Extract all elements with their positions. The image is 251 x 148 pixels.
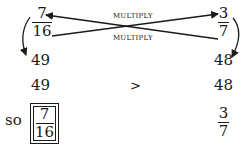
curved-arrow-right bbox=[232, 18, 239, 57]
comparison-right: 48 bbox=[214, 78, 233, 93]
comparison-left: 49 bbox=[31, 78, 50, 93]
multiply-label-bottom: MULTIPLY bbox=[113, 34, 153, 42]
multiply-label-top: MULTIPLY bbox=[113, 12, 153, 20]
denominator: 7 bbox=[219, 124, 229, 139]
product-left: 49 bbox=[31, 53, 50, 68]
answer-fraction-box: 7 16 bbox=[30, 103, 59, 144]
right-fraction: 3 7 bbox=[218, 6, 229, 39]
comparison-operator: > bbox=[130, 78, 141, 93]
denominator: 16 bbox=[32, 24, 51, 39]
numerator: 7 bbox=[37, 6, 47, 21]
product-right: 48 bbox=[214, 53, 233, 68]
left-fraction: 7 16 bbox=[32, 6, 52, 39]
numerator: 3 bbox=[219, 106, 229, 121]
denominator: 7 bbox=[219, 24, 229, 39]
so-label: so bbox=[5, 113, 22, 128]
numerator: 7 bbox=[40, 107, 50, 122]
numerator: 3 bbox=[219, 6, 229, 21]
other-fraction: 3 7 bbox=[218, 106, 229, 139]
curved-arrow-left bbox=[23, 17, 30, 55]
denominator: 16 bbox=[35, 125, 54, 140]
